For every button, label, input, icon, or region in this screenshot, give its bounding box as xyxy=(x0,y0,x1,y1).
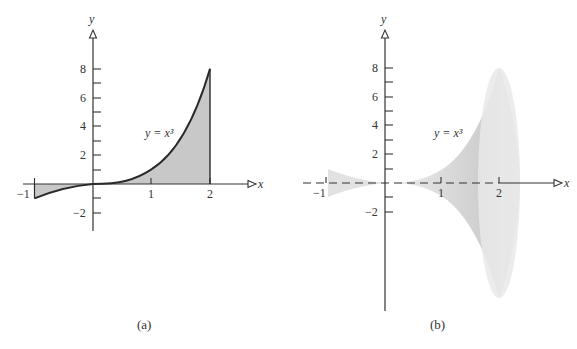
x-tick-label-neg1: −1 xyxy=(313,186,326,200)
x-tick-label-1: 1 xyxy=(438,186,444,200)
y-axis-arrow-icon xyxy=(382,30,389,38)
y-tick-label-neg2: −2 xyxy=(73,206,86,220)
y-axis-label: y xyxy=(88,12,95,26)
curve-label: y = x³ xyxy=(433,126,463,140)
y-ticks xyxy=(93,69,101,213)
panel-caption-a: (a) xyxy=(137,317,151,332)
x-tick-label-2: 2 xyxy=(207,187,213,201)
y-tick-label-2: 2 xyxy=(372,147,378,161)
y-tick-label-4: 4 xyxy=(80,119,86,133)
y-axis-label: y xyxy=(380,12,387,26)
x-tick-label-1: 1 xyxy=(148,187,154,201)
x-tick-label-neg1: −1 xyxy=(17,187,30,201)
x-axis-label: x xyxy=(563,176,570,190)
panel-caption-b: (b) xyxy=(430,317,445,332)
y-tick-label-8: 8 xyxy=(80,62,86,76)
figure-canvas: x y 8 6 4 2 −2 −1 1 2 xyxy=(0,0,577,349)
panel-b: x y 8 6 4 2 −2 −1 1 2 y = x³ ( xyxy=(303,12,570,332)
curve-label: y = x³ xyxy=(144,126,174,140)
y-axis-arrow-icon xyxy=(90,30,97,38)
panel-a: x y 8 6 4 2 −2 −1 1 2 xyxy=(17,12,264,332)
y-tick-label-6: 6 xyxy=(80,91,86,105)
y-tick-label-6: 6 xyxy=(372,90,378,104)
y-tick-label-4: 4 xyxy=(372,118,378,132)
x-axis-arrow-icon xyxy=(554,180,562,187)
y-tick-label-2: 2 xyxy=(80,148,86,162)
y-ticks xyxy=(385,68,393,212)
y-tick-label-neg2: −2 xyxy=(365,205,378,219)
x-axis-arrow-icon xyxy=(248,181,256,188)
y-tick-label-8: 8 xyxy=(372,61,378,75)
x-axis-label: x xyxy=(257,177,264,191)
x-tick-label-2: 2 xyxy=(496,186,502,200)
